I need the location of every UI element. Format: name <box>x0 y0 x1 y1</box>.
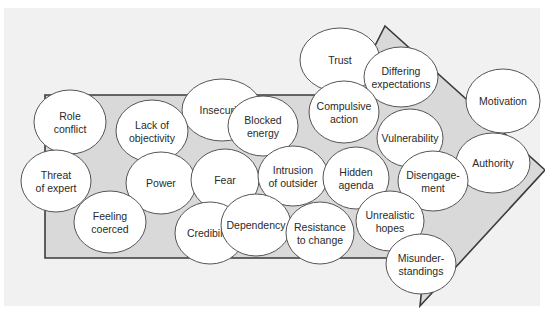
diagram-svg: TrustDifferingexpectationsMotivationRole… <box>0 0 545 318</box>
bubble-label: Blocked <box>244 114 282 126</box>
bubble-label: Threat <box>41 169 71 181</box>
bubble-label: Trust <box>328 54 352 66</box>
bubble-label: Disengage- <box>406 169 460 181</box>
bubble-label: Feeling <box>93 210 128 222</box>
bubble-label: Hidden <box>339 166 372 178</box>
bubble-label: Power <box>146 177 176 189</box>
bubble-label: Resistance <box>294 221 346 233</box>
bubble-label: Lack of <box>135 119 169 131</box>
bubble-label: conflict <box>54 123 87 135</box>
bubble-feeling-coerced: Feelingcoerced <box>74 191 146 253</box>
bubble-label: Compulsive <box>317 100 372 112</box>
bubble-label: energy <box>247 127 280 139</box>
bubble-label: Intrusion <box>273 164 313 176</box>
bubble-misunderstandings: Misunder-standings <box>386 234 456 294</box>
bubble-label: Motivation <box>479 95 527 107</box>
bubble-motivation: Motivation <box>466 69 540 133</box>
bubble-label: Unrealistic <box>365 209 414 221</box>
bubble-label: Dependency <box>227 219 287 231</box>
bubble-label: Role <box>59 110 81 122</box>
bubble-label: ment <box>421 182 444 194</box>
bubble-compulsive-action: Compulsiveaction <box>309 81 379 143</box>
bubble-label: coerced <box>91 223 129 235</box>
bubble-label: objectivity <box>129 132 176 144</box>
bubble-label: Vulnerability <box>382 132 440 144</box>
bubble-label: Fear <box>214 174 236 186</box>
bubble-role-conflict: Roleconflict <box>34 90 106 154</box>
bubble-label: hopes <box>376 222 405 234</box>
bubble-label: Misunder- <box>398 252 445 264</box>
bubble-label: to change <box>297 234 343 246</box>
bubble-label: expectations <box>372 78 431 90</box>
bubble-label: action <box>330 113 358 125</box>
bubble-resistance-to-change: Resistanceto change <box>286 202 354 264</box>
bubble-label: standings <box>399 265 444 277</box>
bubble-label: agenda <box>338 179 373 191</box>
bubble-label: Authority <box>472 157 514 169</box>
bubble-label: of expert <box>36 182 77 194</box>
bubble-label: of outsider <box>268 177 318 189</box>
bubble-label: Differing <box>382 65 421 77</box>
bubble-threat-of-expert: Threatof expert <box>21 150 91 212</box>
bubble-dependency: Dependency <box>221 194 291 256</box>
